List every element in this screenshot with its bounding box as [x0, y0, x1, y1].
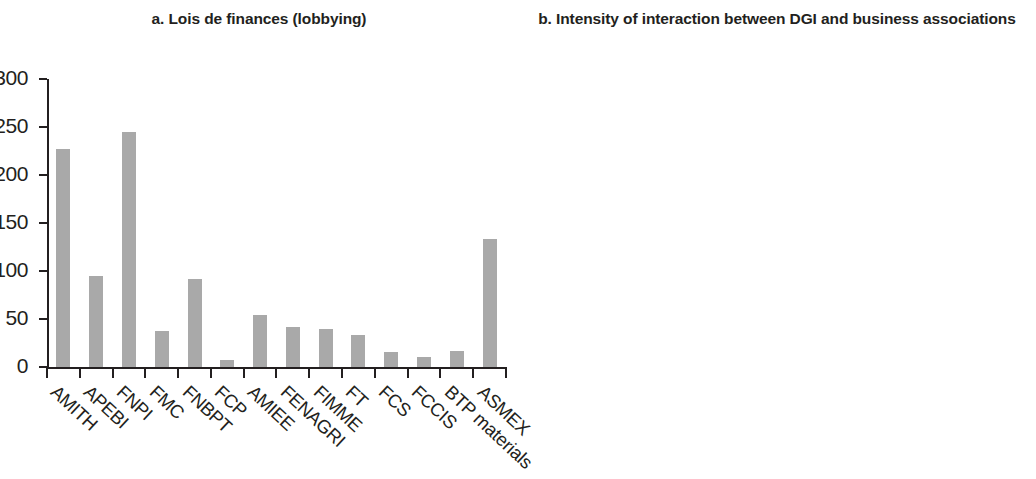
y-axis-tick-label: 100	[0, 258, 28, 282]
bar	[483, 239, 497, 367]
x-axis-label-cell: FT	[342, 367, 375, 477]
bar	[286, 327, 300, 367]
panel-a-x-axis-labels: AMITHAPEBIFNPIFMCFNBPTFCPAMIEEFENAGRIFIM…	[47, 367, 506, 477]
bar-slot	[342, 79, 375, 367]
y-axis-tick-label: 150	[0, 210, 28, 234]
figure-two-panel-bar-charts: a. Lois de finances (lobbying) 050100150…	[0, 0, 1036, 479]
panel-a-plot-area: 050100150200250300 AMITHAPEBIFNPIFMCFNBP…	[47, 79, 506, 367]
bar-slot	[309, 79, 342, 367]
x-axis-tick-label: FT	[341, 381, 372, 412]
x-axis-label-cell: AMITH	[47, 367, 80, 477]
bar-slot	[211, 79, 244, 367]
panel-b-title: b. Intensity of interaction between DGI …	[518, 8, 1036, 30]
y-axis-tick: 200	[39, 174, 47, 176]
bar	[384, 352, 398, 367]
x-axis-label-cell: FCCIS	[408, 367, 441, 477]
y-axis-tick-label: 50	[5, 306, 28, 330]
x-axis-label-cell: FNPI	[113, 367, 146, 477]
panel-a-bars	[47, 79, 506, 367]
bar-slot	[113, 79, 146, 367]
bar-slot	[178, 79, 211, 367]
x-axis-label-cell: FENAGRI	[276, 367, 309, 477]
panel-b: b. Intensity of interaction between DGI …	[518, 0, 1036, 479]
panel-a-title: a. Lois de finances (lobbying)	[0, 8, 518, 30]
bar	[155, 331, 169, 367]
x-axis-label-cell: FCP	[211, 367, 244, 477]
x-axis-label-cell: AMIEE	[244, 367, 277, 477]
bar-slot	[473, 79, 506, 367]
x-axis-label-cell: FIMME	[309, 367, 342, 477]
bar	[417, 357, 431, 367]
y-axis-tick: 100	[39, 270, 47, 272]
x-axis-label-cell: APEBI	[80, 367, 113, 477]
bar	[351, 335, 365, 367]
bar-slot	[440, 79, 473, 367]
bar	[56, 149, 70, 367]
bar-slot	[408, 79, 441, 367]
x-axis-label-cell: FNBPT	[178, 367, 211, 477]
bar	[450, 351, 464, 367]
y-axis-tick: 150	[39, 222, 47, 224]
bar	[89, 276, 103, 367]
y-axis-tick: 50	[39, 318, 47, 320]
x-axis-label-cell: FCS	[375, 367, 408, 477]
bar-slot	[276, 79, 309, 367]
y-axis-tick-label: 300	[0, 66, 28, 90]
y-axis-tick-label: 250	[0, 114, 28, 138]
bar	[122, 132, 136, 367]
bar-slot	[80, 79, 113, 367]
bar-slot	[244, 79, 277, 367]
panel-a: a. Lois de finances (lobbying) 050100150…	[0, 0, 518, 479]
bar	[253, 315, 267, 367]
bar	[319, 329, 333, 367]
bar	[188, 279, 202, 367]
bar-slot	[375, 79, 408, 367]
bar-slot	[145, 79, 178, 367]
y-axis-tick-label: 200	[0, 162, 28, 186]
x-axis-label-cell: FMC	[145, 367, 178, 477]
y-axis-tick-label: 0	[17, 354, 28, 378]
x-axis-label-cell: BTP materials	[440, 367, 473, 477]
y-axis-tick: 300	[39, 78, 47, 80]
bar-slot	[47, 79, 80, 367]
x-axis-label-cell: ASMEX	[473, 367, 506, 477]
bar	[220, 360, 234, 367]
y-axis-tick: 250	[39, 126, 47, 128]
